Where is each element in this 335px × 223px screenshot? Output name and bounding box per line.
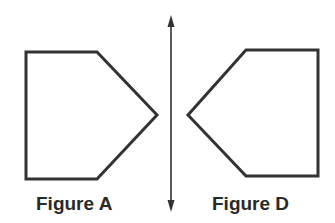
arrow-down-icon xyxy=(168,200,175,212)
figure-d-pentagon xyxy=(188,50,318,176)
diagram-canvas xyxy=(0,0,335,223)
figure-a-pentagon xyxy=(26,52,157,179)
arrow-up-icon xyxy=(168,15,175,27)
figure-a-label: Figure A xyxy=(36,193,112,215)
figure-d-label: Figure D xyxy=(212,193,289,215)
reflection-diagram: Figure A Figure D xyxy=(0,0,335,223)
